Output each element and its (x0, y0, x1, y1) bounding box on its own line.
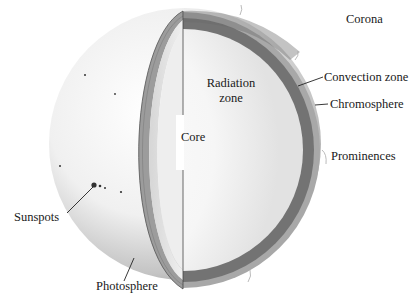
label-sunspots: Sunspots (14, 211, 59, 224)
label-convection-zone: Convection zone (324, 71, 408, 84)
label-photosphere: Photosphere (96, 280, 158, 293)
label-radiation-zone-line2: zone (205, 92, 257, 105)
label-prominences: Prominences (331, 150, 396, 163)
sun-structure-diagram: Corona Convection zone Chromosphere Prom… (0, 0, 415, 301)
label-corona: Corona (346, 13, 383, 26)
label-chromosphere: Chromosphere (330, 98, 404, 111)
label-radiation-zone-line1: Radiation (205, 77, 257, 90)
label-core: Core (181, 131, 205, 144)
